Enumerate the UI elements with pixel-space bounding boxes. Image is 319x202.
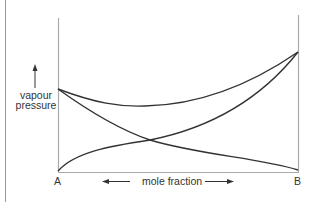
x-arrow-left-icon (102, 179, 109, 184)
x-arrow-right-icon (227, 179, 234, 184)
component-a-label: A (54, 176, 61, 187)
y-axis-label-line2: pressure (13, 100, 59, 111)
x-axis-label: mole fraction (142, 176, 202, 187)
y-arrow-up-icon (33, 64, 38, 71)
total-pressure-curve (58, 52, 298, 106)
component-b-label: B (294, 176, 301, 187)
vapour-pressure-diagram: vapour pressure A B mole fraction (0, 0, 319, 202)
partial-pressure-b-curve (58, 52, 298, 171)
